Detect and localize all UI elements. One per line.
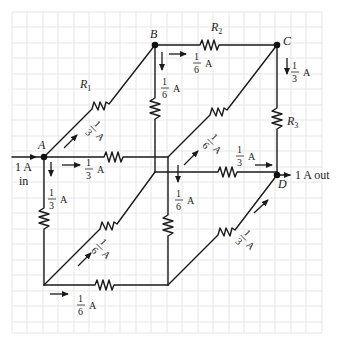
svg-text:A: A bbox=[97, 164, 105, 175]
input-current-label: 1 A bbox=[15, 160, 32, 174]
resistor-label-R2: R2 bbox=[210, 20, 222, 36]
edge-bottomright-D bbox=[168, 175, 277, 285]
edge-inner-C bbox=[168, 45, 277, 157]
edge-A-right bbox=[44, 152, 168, 162]
svg-text:1: 1 bbox=[162, 76, 167, 87]
resistor-cube-circuit-diagram: A B C D R1 R2 R3 1 A in 1 A out 1 3 A 1 … bbox=[0, 0, 350, 347]
edge-inner-down bbox=[163, 157, 173, 285]
current-label-front-diag-D: 1 3 A bbox=[233, 226, 263, 256]
svg-text:6: 6 bbox=[89, 245, 100, 256]
edge-A-down bbox=[39, 157, 49, 285]
svg-text:6: 6 bbox=[200, 140, 211, 151]
output-current-label: 1 A out bbox=[295, 168, 330, 182]
node-B bbox=[152, 42, 159, 49]
svg-text:A: A bbox=[244, 239, 257, 252]
edge-B-C-R2 bbox=[155, 40, 277, 50]
input-suffix-label: in bbox=[19, 174, 28, 188]
arrow-inner-diag-icon bbox=[184, 151, 198, 165]
arrow-AB-icon bbox=[64, 135, 77, 148]
current-label-C-down: 1 3 A bbox=[291, 60, 311, 84]
svg-text:A: A bbox=[187, 195, 195, 206]
svg-text:1: 1 bbox=[194, 51, 199, 62]
node-label-A: A bbox=[37, 138, 46, 152]
svg-text:A: A bbox=[89, 300, 97, 311]
svg-text:6: 6 bbox=[176, 201, 181, 212]
svg-text:A: A bbox=[303, 67, 311, 78]
edge-bottom bbox=[44, 280, 168, 290]
svg-text:A: A bbox=[205, 58, 213, 69]
current-label-inner-down: 1 6 A bbox=[175, 188, 195, 212]
svg-text:A: A bbox=[173, 83, 181, 94]
current-label-B-down: 1 6 A bbox=[161, 76, 181, 100]
resistor-label-R3: R3 bbox=[286, 114, 298, 130]
svg-text:A: A bbox=[248, 151, 256, 162]
node-label-C: C bbox=[283, 34, 292, 48]
node-C bbox=[274, 42, 281, 49]
svg-text:3: 3 bbox=[49, 200, 54, 211]
current-label-BC: 1 6 A bbox=[193, 51, 213, 75]
svg-text:1: 1 bbox=[49, 187, 54, 198]
svg-text:3: 3 bbox=[233, 236, 244, 247]
svg-text:6: 6 bbox=[162, 89, 167, 100]
svg-text:1: 1 bbox=[292, 60, 297, 71]
current-label-AB: 1 3 A bbox=[83, 117, 113, 147]
svg-text:6: 6 bbox=[78, 306, 83, 317]
current-label-bottom-diag: 1 6 A bbox=[89, 235, 119, 265]
current-label-inner-diag: 1 6 A bbox=[200, 130, 230, 160]
node-label-D: D bbox=[277, 177, 287, 191]
svg-text:3: 3 bbox=[86, 170, 91, 181]
svg-text:1: 1 bbox=[78, 293, 83, 304]
edge-C-D-R3 bbox=[272, 45, 282, 175]
svg-text:A: A bbox=[60, 194, 68, 205]
svg-text:1: 1 bbox=[176, 188, 181, 199]
svg-text:3: 3 bbox=[237, 157, 242, 168]
node-label-B: B bbox=[150, 27, 158, 41]
current-label-inner-to-D: 1 3 A bbox=[236, 144, 256, 168]
input-arrow-icon bbox=[30, 154, 37, 160]
edge-center-D bbox=[155, 167, 277, 177]
current-label-bottom-right: 1 6 A bbox=[77, 293, 97, 317]
svg-text:1: 1 bbox=[86, 157, 91, 168]
svg-text:1: 1 bbox=[237, 144, 242, 155]
svg-text:3: 3 bbox=[292, 73, 297, 84]
svg-text:6: 6 bbox=[194, 64, 199, 75]
current-label-A-right: 1 3 A bbox=[85, 157, 105, 181]
node-A bbox=[41, 154, 48, 161]
